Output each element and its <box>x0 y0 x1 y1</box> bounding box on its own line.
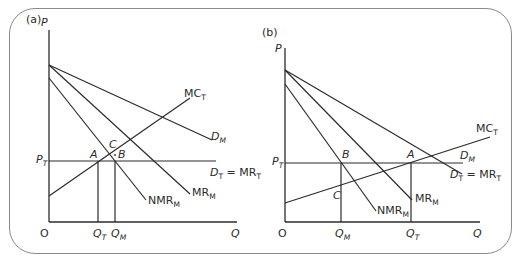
panel-a-label: (a) <box>26 13 41 26</box>
panel-b-mc-t-label: MCT <box>476 122 498 137</box>
panel-a-nmr-m-label: NMRM <box>148 194 180 209</box>
panel-b-qt-label: QT <box>406 227 421 242</box>
panel-a-y-axis-label: P <box>41 16 48 29</box>
panel-b-label: (b) <box>262 26 278 39</box>
panel-a: (a) P O Q DM MRM NMRM MCT PT DT = MRT A … <box>26 13 261 242</box>
diagram-canvas: (a) P O Q DM MRM NMRM MCT PT DT = MRT A … <box>0 0 519 262</box>
panel-a-demand-m-line <box>49 65 212 140</box>
panel-b-point-b: B <box>342 148 350 161</box>
panel-b-demand-m-label: DM <box>460 149 475 164</box>
panel-a-mc-t-line <box>49 98 190 196</box>
panel-a-point-a: A <box>89 148 98 161</box>
panel-b-qm-label: QM <box>335 227 351 242</box>
panel-b-nmr-m-line <box>285 84 376 211</box>
panel-a-x-axis-label: Q <box>231 227 240 240</box>
panel-a-demand-m-label: DM <box>211 130 226 145</box>
panel-b-mr-m-label: MRM <box>415 192 439 207</box>
panel-b-nmr-m-label: NMRM <box>377 204 409 219</box>
panel-b-mr-m-line <box>285 70 412 200</box>
panel-b-origin-label: O <box>278 227 287 240</box>
panel-a-point-c: C <box>109 138 117 151</box>
panel-b-point-a: A <box>406 148 415 161</box>
panel-b-mc-t-line <box>285 137 490 203</box>
panel-b-price-t-label: PT <box>272 155 285 170</box>
panel-b-y-axis-label: P <box>275 42 282 55</box>
panel-a-point-b: B <box>118 148 126 161</box>
panel-a-qm-label: QM <box>111 227 127 242</box>
panel-a-point-b-dot <box>114 154 116 156</box>
panel-b-x-axis-label: Q <box>473 227 482 240</box>
panel-a-mr-m-line <box>49 65 190 194</box>
panel-a-dt-mrt-label: DT = MRT <box>210 166 261 181</box>
panel-b: (b) P O Q DM MRM NMRM MCT PT DT = MRT B … <box>262 26 501 242</box>
panel-a-qt-label: QT <box>93 227 108 242</box>
panel-b-point-c: C <box>333 189 341 202</box>
panel-a-mc-t-label: MCT <box>184 87 206 102</box>
panel-a-price-t-label: PT <box>36 153 49 168</box>
panel-a-origin-label: O <box>40 227 49 240</box>
panel-a-mr-m-label: MRM <box>192 186 216 201</box>
panel-b-dt-mrt-label: DT = MRT <box>450 168 501 183</box>
